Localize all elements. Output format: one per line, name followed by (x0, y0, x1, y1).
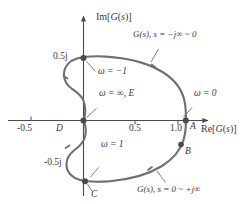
annotation-omega-zero: ω = 0 (194, 89, 217, 99)
point-marker-omega-neg1 (81, 55, 87, 61)
point-marker-E (80, 117, 86, 123)
curve-direction-hashes (64, 65, 156, 171)
tick-label-real-10: 1.0 (170, 124, 182, 134)
branch-label-upper: G(s), s = −j∞ ~ 0 (133, 30, 196, 39)
nyquist-plot-figure: Im[G(s)] Re[G(s)] -0.5 0.5 1.0 0.5j -0.5… (0, 0, 245, 204)
curve-marker-dots (80, 55, 188, 184)
point-marker-B (178, 142, 184, 148)
tick-label-imag-05j: 0.5j (53, 52, 68, 62)
leader-omega-1 (90, 168, 99, 178)
point-label-A: A (190, 122, 196, 132)
point-label-C: C (91, 190, 97, 200)
leader-lower-branch (157, 171, 166, 183)
real-axis-label: Re[G(s)] (201, 124, 237, 134)
branch-label-lower: G(s), s = 0 ~ +j∞ (137, 185, 200, 194)
nyquist-curve-lower (67, 121, 186, 182)
point-label-B: B (185, 147, 191, 157)
point-marker-omega-1 (82, 178, 88, 184)
tick-label-real-neg05: -0.5 (17, 124, 32, 134)
annotation-omega-one: ω = 1 (101, 140, 124, 150)
annotation-omega-neg-one: ω = −1 (98, 67, 127, 77)
annotation-omega-infinity-E: ω = ∞, E (99, 89, 134, 99)
tick-label-real-05: 0.5 (129, 124, 141, 134)
point-marker-A (183, 118, 189, 124)
tick-label-imag-neg05j: -0.5j (44, 158, 62, 168)
imaginary-axis-label: Im[G(s)] (96, 12, 132, 22)
leader-omega-infinity (87, 109, 97, 118)
point-label-D: D (56, 124, 63, 134)
plot-canvas (0, 0, 245, 204)
leader-upper-branch (151, 49, 159, 62)
leader-omega-neg1 (87, 62, 96, 72)
